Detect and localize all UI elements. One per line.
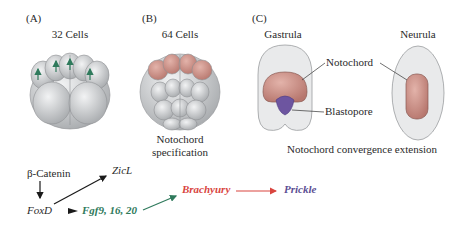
gastrula-embryo (258, 45, 325, 130)
embryo-64-cells (140, 54, 220, 130)
neurula-embryo (380, 46, 444, 140)
pathway-arrows (40, 176, 276, 214)
diagram-graphics (0, 0, 469, 230)
